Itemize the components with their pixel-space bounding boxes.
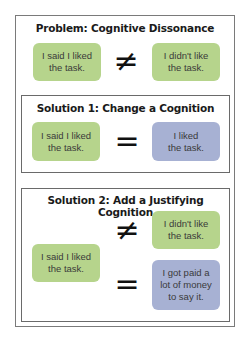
solution1-right-card: I liked the task. xyxy=(152,122,220,161)
problem-left-card: I said I liked the task. xyxy=(33,43,101,81)
solution1-title: Solution 1: Change a Cognition xyxy=(22,102,229,114)
not-equal-icon: ≠ xyxy=(107,215,147,245)
not-equal-icon: ≠ xyxy=(106,46,146,76)
solution2-right-bottom-card: I got paid a lot of money to say it. xyxy=(152,260,220,310)
solution2-right-top-card: I didn't like the task. xyxy=(152,211,220,249)
solution2-left-card: I said I liked the task. xyxy=(32,244,100,282)
solution1-left-card: I said I liked the task. xyxy=(32,122,100,161)
solution2-panel: Solution 2: Add a Justifying Cognition I… xyxy=(21,188,230,322)
solution1-panel: Solution 1: Change a Cognition I said I … xyxy=(21,95,230,173)
problem-right-card: I didn't like the task. xyxy=(152,43,220,81)
equals-icon: = xyxy=(107,269,147,299)
equals-icon: = xyxy=(107,126,147,156)
diagram-frame: Problem: Cognitive Dissonance I said I l… xyxy=(15,15,235,327)
problem-title: Problem: Cognitive Dissonance xyxy=(16,22,234,34)
